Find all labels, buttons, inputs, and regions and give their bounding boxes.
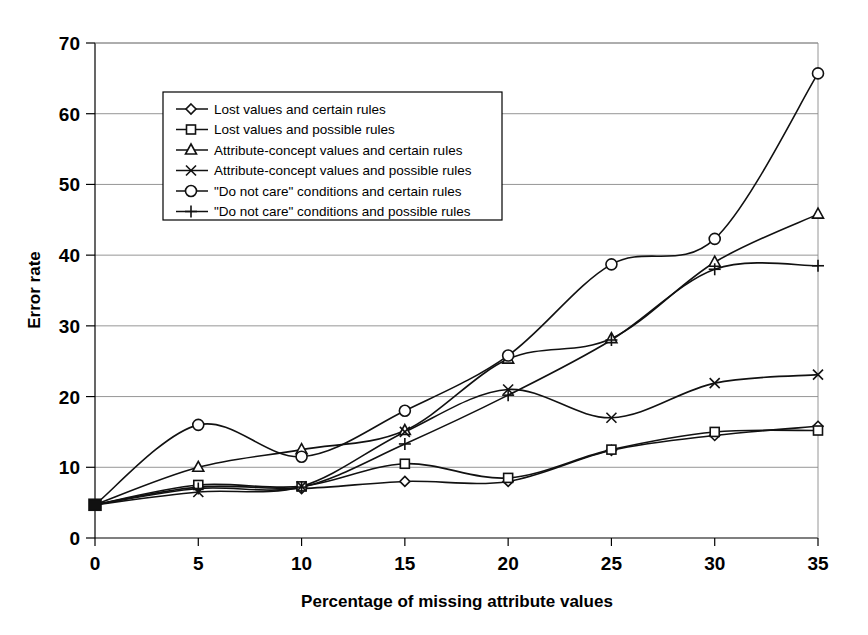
y-tick-labels: 010203040506070 (59, 33, 80, 549)
x-tick-label: 15 (394, 553, 416, 574)
y-tick-label: 10 (59, 457, 80, 478)
x-tick-label: 5 (193, 553, 204, 574)
legend-marker-1 (187, 125, 196, 134)
x-tick-labels: 05101520253035 (90, 553, 829, 574)
chart-container: 010203040506070 05101520253035 Lost valu… (0, 0, 868, 635)
series-marker-1 (504, 473, 513, 482)
y-tick-label: 60 (59, 104, 80, 125)
x-tick-label: 20 (498, 553, 519, 574)
series-marker-2 (813, 208, 824, 218)
y-tick-label: 50 (59, 174, 80, 195)
y-tick-label: 40 (59, 245, 80, 266)
x-axis-title: Percentage of missing attribute values (301, 592, 613, 611)
legend-marker-4 (186, 186, 197, 197)
x-tick-label: 10 (291, 553, 312, 574)
series-marker-4 (709, 233, 720, 244)
origin-marker (89, 499, 101, 510)
legend-label-2: Attribute-concept values and certain rul… (214, 143, 463, 158)
x-tick-label: 0 (90, 553, 101, 574)
x-tick-label: 25 (601, 553, 623, 574)
series-marker-0 (400, 476, 410, 486)
series-marker-4 (606, 259, 617, 270)
legend-label-3: Attribute-concept values and possible ru… (214, 163, 472, 178)
series-marker-1 (607, 445, 616, 454)
y-axis-title: Error rate (25, 251, 44, 328)
y-tick-label: 70 (59, 33, 80, 54)
y-tick-label: 20 (59, 387, 80, 408)
y-tick-label: 30 (59, 316, 80, 337)
series-marker-4 (296, 451, 307, 462)
legend-label-0: Lost values and certain rules (214, 102, 386, 117)
series-marker-4 (399, 405, 410, 416)
series-marker-4 (193, 419, 204, 430)
line-chart: 010203040506070 05101520253035 Lost valu… (0, 0, 868, 635)
y-tick-label: 0 (69, 528, 80, 549)
legend: Lost values and certain rulesLost values… (163, 92, 502, 220)
series-marker-1 (814, 426, 823, 435)
legend-label-1: Lost values and possible rules (214, 122, 395, 137)
legend-label-5: "Do not care" conditions and possible ru… (214, 204, 471, 219)
series-marker-1 (710, 427, 719, 436)
x-tick-label: 30 (704, 553, 725, 574)
legend-label-4: "Do not care" conditions and certain rul… (214, 184, 462, 199)
series-line-2 (95, 214, 818, 505)
series-marker-4 (503, 350, 514, 361)
x-tick-label: 35 (807, 553, 829, 574)
series-marker-4 (813, 68, 824, 79)
series-marker-1 (400, 459, 409, 468)
